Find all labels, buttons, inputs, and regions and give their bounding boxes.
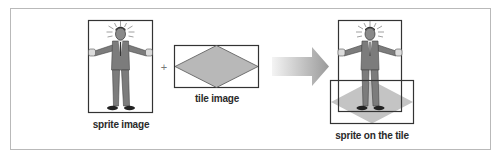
tile-image-label: tile image — [195, 93, 239, 104]
sprite-on-tile-panel — [331, 21, 414, 124]
plus-operator: + — [161, 61, 167, 73]
sprite-image-label: sprite image — [93, 119, 150, 130]
diagram-canvas — [0, 0, 502, 157]
sprite-image-panel — [89, 21, 153, 113]
tile-image-panel — [175, 46, 259, 88]
right-arrow-icon — [272, 47, 329, 86]
sprite-on-tile-label: sprite on the tile — [335, 130, 409, 141]
